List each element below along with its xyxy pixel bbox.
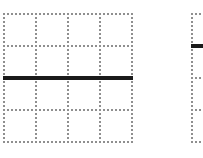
grid-cell [67, 77, 101, 111]
bold-horizontal-line [191, 44, 203, 48]
grid-cell [35, 77, 69, 111]
grid-cell [3, 13, 37, 47]
bold-horizontal-line [3, 76, 133, 80]
left-grid-diagram [3, 13, 133, 143]
grid-cell [3, 77, 37, 111]
grid-cell [191, 109, 203, 143]
grid-cell [3, 45, 37, 79]
grid-cell [35, 109, 69, 143]
grid-cell [67, 13, 101, 47]
grid-cell [99, 13, 133, 47]
grid-cell [99, 109, 133, 143]
grid-cell [3, 109, 37, 143]
grid-cell [35, 45, 69, 79]
grid-cell [191, 77, 203, 111]
grid-cell [99, 45, 133, 79]
grid-cell [191, 45, 203, 79]
grid-cell [191, 13, 203, 47]
grid-cell [67, 45, 101, 79]
grid-cell [35, 13, 69, 47]
grid-cell [67, 109, 101, 143]
right-grid-diagram [191, 13, 203, 143]
grid-cell [99, 77, 133, 111]
